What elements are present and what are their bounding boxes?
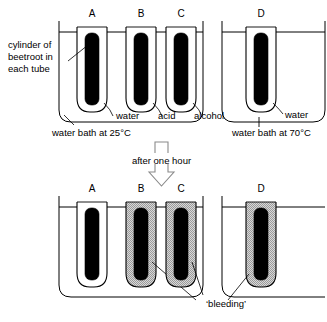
bottom-tube-c: C — [166, 183, 203, 295]
beetroot-cylinder-d — [254, 33, 268, 105]
top-tube-d: D water — [246, 8, 308, 120]
diagram-canvas: A water B acid C alcohol water bath at 2… — [0, 0, 327, 322]
tube-label-bottom-a: A — [89, 183, 96, 194]
bleeding-label: ‘bleeding’ — [206, 298, 246, 309]
caption-water-bath-cold: water bath at 25°C — [51, 127, 131, 138]
beetroot-cylinder-bottom-b — [134, 208, 148, 280]
tube-label-b: B — [138, 8, 145, 19]
bottom-tube-a: A — [77, 183, 107, 287]
after-one-hour-arrow: after one hour — [132, 142, 191, 186]
beetroot-callout-line2: beetroot in — [8, 51, 53, 62]
liquid-label-water-d: water — [284, 109, 308, 120]
top-tube-c: C alcohol — [166, 8, 224, 121]
beetroot-cylinder-c — [174, 33, 188, 105]
tube-label-bottom-d: D — [257, 183, 264, 194]
beetroot-cylinder-bottom-a — [85, 208, 99, 280]
liquid-label-alcohol-c: alcohol — [194, 110, 224, 121]
leader-water-d — [273, 103, 283, 114]
leader-bleeding-d — [228, 274, 249, 300]
beetroot-callout: cylinder of beetroot in each tube — [8, 39, 88, 74]
beetroot-callout-line1: cylinder of — [8, 39, 52, 50]
tube-label-a: A — [89, 8, 96, 19]
beetroot-cylinder-bottom-c — [174, 208, 188, 280]
tube-label-d: D — [257, 8, 264, 19]
beetroot-cylinder-b — [134, 33, 148, 105]
beetroot-cylinder-bottom-d — [254, 208, 268, 280]
bottom-tube-d: D — [228, 183, 276, 300]
after-one-hour-label: after one hour — [132, 155, 191, 166]
caption-water-bath-hot: water bath at 70°C — [231, 127, 311, 138]
liquid-label-acid-b: acid — [158, 110, 175, 121]
beetroot-experiment-diagram: A water B acid C alcohol water bath at 2… — [0, 0, 327, 322]
leader-water-a — [104, 103, 113, 116]
tube-label-c: C — [177, 8, 184, 19]
beetroot-cylinder-a — [85, 33, 99, 105]
beetroot-callout-line3: each tube — [8, 63, 50, 74]
tube-label-bottom-b: B — [138, 183, 145, 194]
tube-label-bottom-c: C — [177, 183, 184, 194]
